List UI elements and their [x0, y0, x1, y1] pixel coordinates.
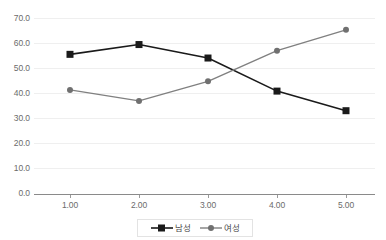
data-point	[343, 107, 350, 114]
line-series-yeoseong	[70, 30, 346, 101]
plot-area: 70.0 60.0 50.0 40.0 30.0 20.0 10.0 0.0 1…	[0, 0, 386, 240]
data-point	[67, 51, 74, 58]
data-point	[136, 41, 143, 48]
data-point	[136, 98, 142, 104]
square-marker-icon	[151, 223, 173, 233]
markers-yeoseong	[67, 27, 349, 104]
series-layer	[0, 0, 386, 240]
data-point	[274, 48, 280, 54]
circle-marker-icon	[200, 223, 222, 233]
legend: 남성 여성	[137, 219, 253, 237]
data-point	[205, 78, 211, 84]
line-series-namseong	[70, 45, 346, 111]
legend-label-namseong: 남성	[175, 224, 191, 233]
line-chart: 70.0 60.0 50.0 40.0 30.0 20.0 10.0 0.0 1…	[0, 0, 386, 240]
data-point	[343, 27, 349, 33]
legend-entry-namseong: 남성	[151, 223, 191, 233]
data-point	[205, 55, 212, 62]
data-point	[67, 87, 73, 93]
legend-label-yeoseong: 여성	[224, 224, 240, 233]
legend-entry-yeoseong: 여성	[200, 223, 240, 233]
data-point	[274, 88, 281, 95]
markers-namseong	[67, 41, 350, 114]
